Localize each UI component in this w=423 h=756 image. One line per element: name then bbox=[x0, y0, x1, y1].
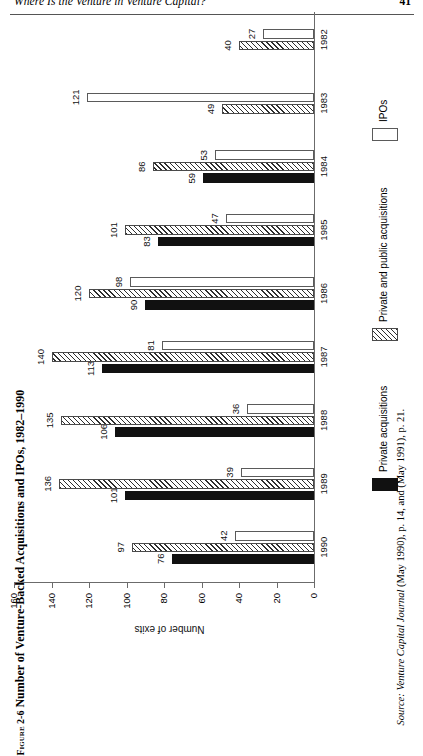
bar-value-label: 40 bbox=[223, 40, 233, 51]
year-label: 1982 bbox=[319, 29, 329, 50]
bar bbox=[235, 531, 314, 541]
value-axis-tick bbox=[239, 583, 240, 588]
value-axis-tick bbox=[314, 583, 315, 588]
bar-value-label: 101 bbox=[109, 222, 119, 238]
bar-value-label: 101 bbox=[109, 487, 119, 503]
year-label: 1987 bbox=[319, 346, 329, 367]
bar-value-label: 120 bbox=[73, 286, 83, 302]
source-prefix: Source: bbox=[395, 693, 406, 725]
bar-value-label: 83 bbox=[142, 236, 152, 247]
bar bbox=[203, 173, 314, 183]
bar-value-label: 53 bbox=[199, 150, 209, 161]
value-axis-tick-label: 160 bbox=[9, 593, 19, 641]
bar bbox=[226, 214, 314, 224]
bar-value-label: 90 bbox=[129, 300, 139, 311]
bar bbox=[89, 289, 314, 299]
year-label: 1986 bbox=[319, 283, 329, 304]
bar-value-label: 136 bbox=[43, 476, 53, 492]
legend-label: Private and public acquisitions bbox=[379, 187, 389, 322]
value-axis-tick-label: 100 bbox=[122, 593, 132, 641]
value-axis-tick-label: 120 bbox=[84, 593, 94, 641]
bar-value-label: 86 bbox=[137, 161, 147, 172]
bar bbox=[241, 468, 314, 478]
bar-value-label: 27 bbox=[247, 29, 257, 40]
bar-value-label: 106 bbox=[99, 424, 109, 440]
bar-value-label: 47 bbox=[210, 213, 220, 224]
bar bbox=[239, 41, 314, 51]
bar-value-label: 59 bbox=[187, 173, 197, 184]
value-axis-tick-label: 40 bbox=[234, 593, 244, 641]
value-axis-tick-label: 0 bbox=[309, 593, 319, 641]
legend-label: Private acquisitions bbox=[379, 386, 389, 472]
bar bbox=[172, 554, 315, 564]
year-label: 1984 bbox=[319, 156, 329, 177]
value-axis-tick bbox=[202, 583, 203, 588]
legend-label: IPOs bbox=[379, 100, 389, 122]
value-axis-tick bbox=[52, 583, 53, 588]
bar-value-label: 135 bbox=[45, 412, 55, 428]
value-axis-tick bbox=[164, 583, 165, 588]
bar bbox=[158, 237, 314, 247]
legend-swatch bbox=[372, 478, 398, 491]
year-label: 1990 bbox=[319, 537, 329, 558]
bar bbox=[52, 352, 315, 362]
bar bbox=[263, 29, 314, 39]
bar-value-label: 140 bbox=[36, 349, 46, 365]
bar-value-label: 49 bbox=[206, 104, 216, 115]
bar bbox=[153, 162, 314, 172]
bar bbox=[130, 277, 314, 287]
bar bbox=[59, 479, 314, 489]
category-axis-line bbox=[314, 12, 315, 583]
bar bbox=[115, 427, 314, 437]
bar bbox=[61, 416, 314, 426]
bar bbox=[125, 491, 314, 501]
value-axis-tick bbox=[14, 583, 15, 588]
value-axis-tick-label: 140 bbox=[47, 593, 57, 641]
bar bbox=[215, 150, 314, 160]
bar bbox=[162, 341, 314, 351]
bar bbox=[87, 93, 314, 103]
bar-value-label: 81 bbox=[146, 340, 156, 351]
bar-value-label: 97 bbox=[116, 542, 126, 553]
bar-value-label: 36 bbox=[231, 404, 241, 415]
chart-area: 020406080100120140160 769742101136391061… bbox=[0, 0, 423, 641]
bar bbox=[247, 404, 315, 414]
bar-value-label: 121 bbox=[71, 89, 81, 105]
bar bbox=[132, 543, 314, 553]
legend-swatch bbox=[372, 328, 398, 341]
bar-value-label: 113 bbox=[86, 361, 96, 376]
bar bbox=[145, 300, 314, 310]
value-axis-title: Number of exits bbox=[134, 624, 204, 635]
bar-value-label: 76 bbox=[156, 553, 166, 564]
bar-value-label: 42 bbox=[219, 530, 229, 541]
year-label: 1985 bbox=[319, 219, 329, 240]
bar bbox=[125, 225, 314, 235]
figure-label: Figure 2-6 bbox=[15, 711, 26, 756]
year-label: 1983 bbox=[319, 93, 329, 114]
bar bbox=[102, 364, 314, 374]
chart-plot: 020406080100120140160 769742101136391061… bbox=[0, 0, 423, 641]
value-axis-tick-label: 20 bbox=[272, 593, 282, 641]
value-axis-tick bbox=[277, 583, 278, 588]
value-axis-tick bbox=[127, 583, 128, 588]
year-label: 1989 bbox=[319, 473, 329, 494]
year-label: 1988 bbox=[319, 410, 329, 431]
bar-value-label: 39 bbox=[225, 467, 235, 478]
legend-swatch bbox=[372, 128, 398, 141]
bar-value-label: 98 bbox=[114, 277, 124, 288]
bar bbox=[222, 104, 314, 114]
value-axis-tick bbox=[89, 583, 90, 588]
